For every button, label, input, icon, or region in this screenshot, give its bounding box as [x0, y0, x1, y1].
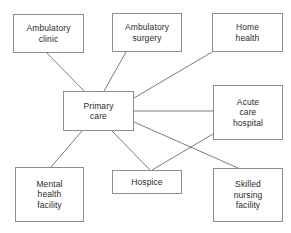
node-ambulatory-surgery[interactable]: Ambulatory surgery: [112, 13, 182, 52]
edge-primary-care-hospice: [112, 131, 150, 170]
node-label-mental-health-facility: Mental health facility: [36, 179, 62, 211]
node-label-primary-care: Primary care: [84, 101, 114, 122]
node-skilled-nursing-facility[interactable]: Skilled nursing facility: [213, 168, 283, 222]
edge-acute-care-hospital-hospice: [152, 134, 213, 170]
care-continuum-diagram: Ambulatory clinicAmbulatory surgeryHome …: [0, 0, 291, 233]
node-acute-care-hospital[interactable]: Acute care hospital: [213, 85, 283, 140]
edge-primary-care-mental-health-facility: [51, 131, 82, 167]
edge-ambulatory-surgery-primary-care: [104, 52, 126, 91]
node-label-ambulatory-surgery: Ambulatory surgery: [125, 22, 169, 43]
node-hospice[interactable]: Hospice: [112, 170, 182, 194]
node-label-hospice: Hospice: [131, 177, 162, 188]
node-label-acute-care-hospital: Acute care hospital: [233, 97, 263, 129]
edge-ambulatory-clinic-primary-care: [47, 53, 84, 91]
node-mental-health-facility[interactable]: Mental health facility: [15, 167, 84, 222]
edge-home-health-primary-care: [134, 52, 212, 98]
node-primary-care[interactable]: Primary care: [63, 91, 134, 131]
node-ambulatory-clinic[interactable]: Ambulatory clinic: [13, 14, 84, 53]
node-label-ambulatory-clinic: Ambulatory clinic: [27, 23, 71, 44]
node-label-skilled-nursing-facility: Skilled nursing facility: [234, 179, 263, 211]
node-home-health[interactable]: Home health: [212, 13, 283, 52]
node-label-home-health: Home health: [236, 22, 260, 43]
